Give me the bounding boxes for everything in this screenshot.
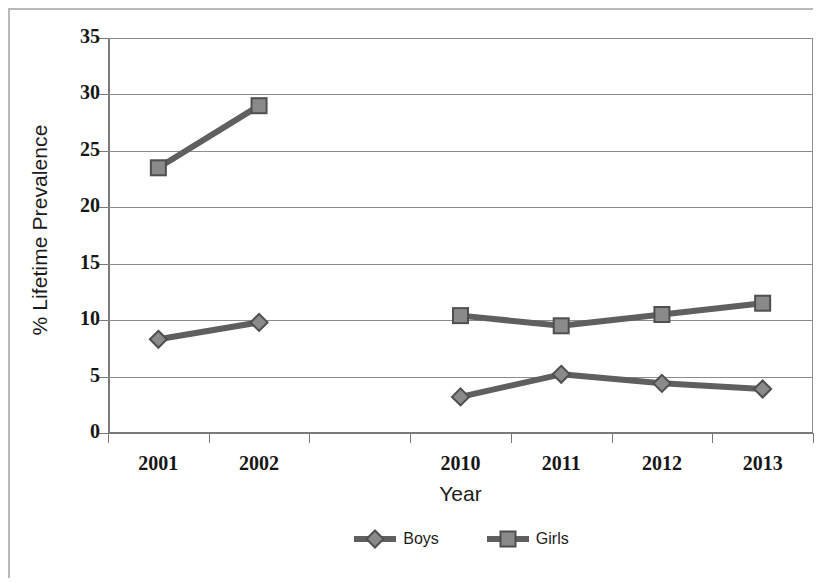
y-tick-mark bbox=[99, 207, 108, 208]
line-chart: % Lifetime Prevalence 05101520253035 200… bbox=[0, 0, 821, 584]
y-tick-mark bbox=[99, 151, 108, 152]
y-tick-label: 25 bbox=[80, 138, 100, 161]
x-tick-mark bbox=[309, 433, 310, 443]
data-point-marker bbox=[150, 331, 167, 348]
x-tick-label: 2013 bbox=[703, 452, 821, 475]
y-tick-label: 0 bbox=[90, 420, 100, 443]
y-tick-mark bbox=[99, 320, 108, 321]
y-tick-mark bbox=[99, 377, 108, 378]
x-tick-label: 2002 bbox=[199, 452, 319, 475]
y-tick-mark bbox=[99, 38, 108, 39]
x-tick-mark bbox=[511, 433, 512, 443]
x-axis-title: Year bbox=[108, 482, 813, 506]
series-line bbox=[158, 106, 259, 168]
y-tick-mark bbox=[99, 94, 108, 95]
data-point-marker bbox=[251, 314, 268, 331]
series-line bbox=[461, 303, 763, 326]
data-point-marker bbox=[553, 366, 570, 383]
data-point-marker bbox=[654, 307, 669, 322]
plot-area: 05101520253035 bbox=[108, 38, 813, 433]
x-tick-mark bbox=[813, 433, 814, 443]
y-tick-label: 10 bbox=[80, 307, 100, 330]
legend-diamond-marker-icon bbox=[352, 528, 398, 550]
data-point-marker bbox=[151, 160, 166, 175]
data-point-marker bbox=[653, 375, 670, 392]
series-line bbox=[461, 374, 763, 397]
series-line bbox=[158, 322, 259, 339]
y-tick-mark bbox=[99, 264, 108, 265]
legend-square-marker-icon bbox=[485, 528, 531, 550]
data-point-marker bbox=[755, 296, 770, 311]
x-tick-mark bbox=[712, 433, 713, 443]
y-tick-label: 30 bbox=[80, 81, 100, 104]
data-point-marker bbox=[754, 380, 771, 397]
x-tick-mark bbox=[410, 433, 411, 443]
series-girls bbox=[151, 98, 770, 333]
x-tick-mark bbox=[108, 433, 109, 443]
legend-label: Boys bbox=[403, 530, 439, 548]
data-point-marker bbox=[554, 318, 569, 333]
series-boys bbox=[150, 314, 771, 405]
legend-item-girls[interactable]: Girls bbox=[485, 528, 569, 550]
legend: BoysGirls bbox=[108, 528, 813, 550]
y-tick-label: 5 bbox=[90, 364, 100, 387]
x-tick-mark bbox=[209, 433, 210, 443]
y-tick-label: 35 bbox=[80, 25, 100, 48]
y-tick-label: 20 bbox=[80, 194, 100, 217]
series-plot bbox=[108, 38, 813, 433]
legend-label: Girls bbox=[536, 530, 569, 548]
x-tick-mark bbox=[612, 433, 613, 443]
y-tick-label: 15 bbox=[80, 251, 100, 274]
y-tick-mark bbox=[99, 433, 108, 434]
data-point-marker bbox=[252, 98, 267, 113]
legend-item-boys[interactable]: Boys bbox=[352, 528, 439, 550]
data-point-marker bbox=[453, 308, 468, 323]
data-point-marker bbox=[452, 388, 469, 405]
y-axis-title: % Lifetime Prevalence bbox=[28, 20, 52, 440]
